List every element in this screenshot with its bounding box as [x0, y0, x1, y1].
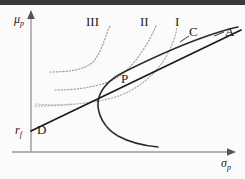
risk-free-rate-sub: f [20, 130, 22, 139]
chart-canvas [0, 0, 245, 179]
x-axis-label: σp [221, 157, 231, 172]
label-c-leader [180, 36, 189, 42]
indifference-curve-iii [50, 25, 111, 72]
x-axis [12, 148, 236, 156]
x-axis-label-sub: p [227, 163, 231, 172]
y-axis-label-sub: p [20, 19, 24, 28]
risk-free-point-label-d: D [37, 123, 46, 136]
capital-market-line-label-a: A [225, 25, 234, 38]
capital-market-line [31, 30, 241, 131]
indifference-curve-iii-label: III [86, 15, 99, 28]
risk-free-rate-label: rf [15, 124, 22, 139]
indifference-curve-ii-label: II [140, 15, 149, 28]
efficient-frontier-lower-branch [98, 101, 158, 147]
efficient-frontier-upper-branch [98, 27, 238, 101]
tangency-point-label-p: P [121, 72, 128, 85]
indifference-curve-i-label: I [175, 15, 179, 28]
efficient-frontier-label-c: C [189, 25, 198, 38]
y-axis-label: μp [14, 13, 24, 28]
figure-container: μp σp III II I C A P D rf [0, 0, 245, 179]
